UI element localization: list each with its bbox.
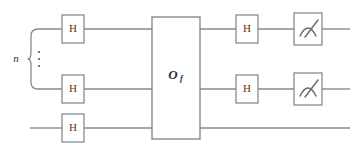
hadamard-label: H [69, 22, 77, 34]
register-brace [28, 29, 59, 89]
hadamard-label: H [69, 121, 77, 133]
hadamard-gate-wire-2-left[interactable]: H [62, 75, 84, 103]
measurement-gate-wire-2[interactable] [294, 73, 322, 105]
hadamard-gate-wire-2-right[interactable]: H [236, 75, 258, 103]
hadamard-gate-wire-1-right[interactable]: H [236, 15, 258, 43]
vertical-ellipsis-icon [38, 51, 40, 67]
oracle-label-main: O [168, 67, 178, 82]
hadamard-gate-wire-3-left[interactable]: H [62, 114, 84, 142]
measurement-gate-wire-1[interactable] [294, 13, 322, 45]
gate-box [294, 13, 322, 45]
oracle-gate[interactable]: O f [152, 17, 200, 139]
gate-box [294, 73, 322, 105]
hadamard-label: H [243, 82, 251, 94]
hadamard-label: H [69, 82, 77, 94]
hadamard-gate-wire-1-left[interactable]: H [62, 15, 84, 43]
register-size-label: n [13, 52, 19, 64]
hadamard-label: H [243, 22, 251, 34]
circuit-canvas: n H H H O f H [0, 0, 363, 152]
quantum-circuit-figure: n H H H O f H [0, 0, 363, 152]
